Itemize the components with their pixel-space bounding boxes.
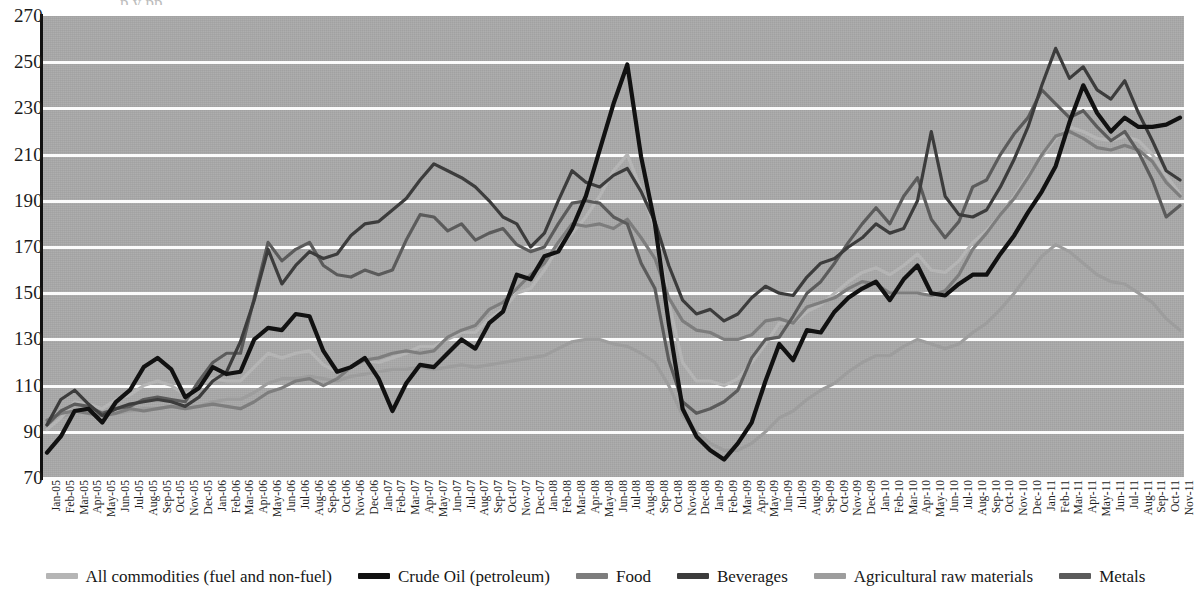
x-tick-label: May-11 <box>1101 480 1113 517</box>
x-tick-label: Mar-08 <box>576 480 588 515</box>
legend-item[interactable]: Agricultural raw materials <box>814 568 1033 585</box>
x-tick-label: Dec-09 <box>866 480 878 514</box>
x-tick-label: Aug-05 <box>148 480 160 516</box>
legend-swatch-icon <box>677 573 709 579</box>
x-tick-label: Apr-06 <box>258 480 270 514</box>
legend-label: Food <box>616 568 651 585</box>
x-tick-label: Feb-09 <box>728 480 740 513</box>
x-tick-label: Sep-08 <box>659 480 671 513</box>
x-tick-label: Jul-07 <box>466 480 478 509</box>
x-tick-label: Aug-06 <box>314 480 326 516</box>
y-tick-label: 230 <box>3 98 43 117</box>
series-lines-group <box>43 16 1184 478</box>
x-tick-label: Mar-09 <box>742 480 754 515</box>
x-tick-label: Jun-08 <box>618 480 630 512</box>
legend-label: Crude Oil (petroleum) <box>398 568 550 585</box>
y-tick-label: 110 <box>3 376 43 395</box>
x-tick-label: Apr-10 <box>921 480 933 514</box>
x-tick-label: Nov-06 <box>355 480 367 516</box>
x-tick-label: Jan-11 <box>1046 480 1058 511</box>
x-tick-label: Jan-10 <box>880 480 892 511</box>
x-tick-label: Dec-06 <box>369 480 381 514</box>
x-tick-label: Jan-08 <box>548 480 560 511</box>
y-tick-label: 250 <box>3 52 43 71</box>
x-tick-label: Nov-05 <box>189 480 201 516</box>
x-tick-label: Mar-10 <box>908 480 920 515</box>
x-tick-label: Aug-08 <box>645 480 657 516</box>
legend-item[interactable]: Metals <box>1059 568 1145 585</box>
clipped-title-text: p y pp <box>120 0 1020 5</box>
x-tick-label: Mar-07 <box>410 480 422 515</box>
x-tick-label: Jan-07 <box>383 480 395 511</box>
x-tick-label: Jun-10 <box>949 480 961 512</box>
x-tick-label: Oct-11 <box>1170 480 1182 512</box>
x-tick-label: Mar-05 <box>79 480 91 515</box>
series-line <box>47 90 1180 425</box>
x-tick-label: Jan-05 <box>51 480 63 511</box>
x-tick-label: Apr-11 <box>1087 480 1099 513</box>
x-tick-label: Jun-09 <box>783 480 795 512</box>
x-tick-label: Jun-06 <box>286 480 298 512</box>
x-tick-label: Oct-06 <box>341 480 353 513</box>
y-tick-label: 150 <box>3 283 43 302</box>
x-tick-label: Mar-11 <box>1073 480 1085 514</box>
x-tick-label: Aug-11 <box>1143 480 1155 515</box>
x-tick-label: Aug-07 <box>479 480 491 516</box>
x-tick-label: Feb-05 <box>65 480 77 513</box>
x-tick-label: Jun-05 <box>120 480 132 512</box>
x-axis-labels: Jan-05Feb-05Mar-05Apr-05May-05Jun-05Jul-… <box>43 480 1184 552</box>
x-tick-label: Sep-11 <box>1156 480 1168 513</box>
x-tick-label: Jun-11 <box>1115 480 1127 511</box>
series-line <box>47 245 1180 451</box>
y-tick-label: 90 <box>3 422 43 441</box>
legend-swatch-icon <box>814 573 846 579</box>
x-tick-label: Apr-05 <box>92 480 104 514</box>
x-tick-label: Jan-06 <box>217 480 229 511</box>
x-tick-label: Nov-10 <box>1018 480 1030 516</box>
x-tick-label: Nov-11 <box>1184 480 1196 515</box>
y-tick-label: 130 <box>3 329 43 348</box>
y-tick-label: 190 <box>3 191 43 210</box>
x-tick-label: Sep-10 <box>991 480 1003 513</box>
x-tick-label: Jul-11 <box>1129 480 1141 509</box>
x-tick-label: Feb-11 <box>1060 480 1072 513</box>
legend-swatch-icon <box>46 573 78 579</box>
y-tick-label: 210 <box>3 145 43 164</box>
legend-item[interactable]: Beverages <box>677 568 788 585</box>
x-tick-label: May-09 <box>769 480 781 517</box>
x-tick-label: May-08 <box>604 480 616 517</box>
x-tick-label: Oct-10 <box>1004 480 1016 513</box>
x-tick-label: May-10 <box>935 480 947 517</box>
x-tick-label: Jul-05 <box>134 480 146 509</box>
y-tick-label: 170 <box>3 237 43 256</box>
x-tick-label: Jun-07 <box>452 480 464 512</box>
legend-swatch-icon <box>1059 573 1091 579</box>
legend-label: Beverages <box>717 568 788 585</box>
x-tick-label: Jul-09 <box>797 480 809 509</box>
x-tick-label: Sep-05 <box>162 480 174 513</box>
x-tick-label: May-07 <box>438 480 450 517</box>
y-tick-label: 70 <box>3 468 43 487</box>
legend-label: Metals <box>1099 568 1145 585</box>
series-line <box>47 127 1180 430</box>
x-tick-label: Sep-07 <box>493 480 505 513</box>
legend-item[interactable]: Food <box>576 568 651 585</box>
legend-item[interactable]: Crude Oil (petroleum) <box>358 568 550 585</box>
y-tick-label: 270 <box>3 6 43 25</box>
x-tick-label: Jul-10 <box>963 480 975 509</box>
x-tick-label: Apr-08 <box>590 480 602 514</box>
x-tick-label: Dec-05 <box>203 480 215 514</box>
x-tick-label: Mar-06 <box>244 480 256 515</box>
x-tick-label: Oct-09 <box>839 480 851 513</box>
legend-item[interactable]: All commodities (fuel and non-fuel) <box>46 568 332 585</box>
x-tick-label: Apr-07 <box>424 480 436 514</box>
x-tick-label: Feb-10 <box>894 480 906 513</box>
x-tick-label: Oct-07 <box>507 480 519 513</box>
x-tick-label: Dec-10 <box>1032 480 1044 514</box>
x-tick-label: Oct-05 <box>175 480 187 513</box>
x-tick-label: Jan-09 <box>714 480 726 511</box>
chart-legend: All commodities (fuel and non-fuel)Crude… <box>0 560 1191 592</box>
x-tick-label: Aug-09 <box>811 480 823 516</box>
x-tick-label: Aug-10 <box>977 480 989 516</box>
